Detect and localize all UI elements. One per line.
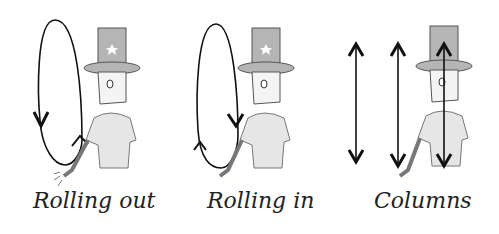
caption-rolling-out: Rolling out xyxy=(33,188,155,213)
panel-rolling-out: Rolling out xyxy=(0,0,166,234)
loop-arrow-icon xyxy=(194,24,243,168)
panel-columns: Columns xyxy=(332,0,498,234)
cartoon-figure-icon xyxy=(400,26,472,176)
caption-rolling-in: Rolling in xyxy=(207,188,314,213)
loop-arrow-icon xyxy=(34,20,88,165)
cartoon-figure-icon xyxy=(54,28,140,186)
caption-columns: Columns xyxy=(374,188,472,213)
panel-rolling-in: Rolling in xyxy=(166,0,332,234)
